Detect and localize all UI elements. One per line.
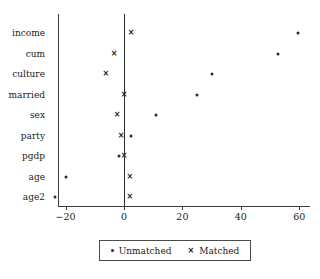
x-axis-tick-label: 20 bbox=[176, 211, 188, 222]
y-axis-line bbox=[58, 14, 59, 206]
x-axis-tick-label: 40 bbox=[235, 211, 247, 222]
data-point-unmatched-income bbox=[296, 32, 299, 35]
data-point-matched-married: × bbox=[121, 91, 128, 99]
y-axis-label-cum: cum bbox=[26, 49, 45, 59]
data-point-matched-pgdp: × bbox=[121, 152, 128, 160]
data-point-matched-age: × bbox=[126, 173, 133, 181]
y-axis-label-sex: sex bbox=[30, 110, 45, 120]
x-axis-tick bbox=[66, 206, 67, 210]
x-axis-tick bbox=[241, 206, 242, 210]
plot-area: −200204060 incomecumculturemarriedsexpar… bbox=[58, 14, 310, 206]
legend-label-matched: Matched bbox=[199, 246, 239, 256]
data-point-unmatched-married bbox=[196, 93, 199, 96]
data-point-matched-income: × bbox=[128, 29, 135, 37]
y-axis-label-party: party bbox=[21, 131, 45, 141]
chart-legend: Unmatched × Matched bbox=[99, 240, 251, 261]
legend-item-matched: × Matched bbox=[188, 246, 240, 256]
y-axis-label-married: married bbox=[9, 90, 45, 100]
x-axis-tick bbox=[124, 206, 125, 210]
data-point-matched-party: × bbox=[118, 132, 125, 140]
legend-item-unmatched: Unmatched bbox=[111, 246, 172, 256]
x-axis-tick-label: 60 bbox=[293, 211, 305, 222]
x-axis-tick bbox=[182, 206, 183, 210]
data-point-unmatched-cum bbox=[276, 52, 279, 55]
data-point-unmatched-party bbox=[130, 134, 133, 137]
data-point-unmatched-sex bbox=[155, 114, 158, 117]
data-point-unmatched-culture bbox=[210, 73, 213, 76]
standardized-bias-scatter-chart: −200204060 incomecumculturemarriedsexpar… bbox=[0, 0, 320, 279]
x-marker-icon: × bbox=[188, 247, 195, 255]
x-axis-tick bbox=[299, 206, 300, 210]
data-point-unmatched-age2 bbox=[54, 196, 57, 199]
y-axis-label-income: income bbox=[12, 28, 45, 38]
x-axis-line bbox=[58, 206, 310, 207]
data-point-matched-cum: × bbox=[111, 50, 118, 58]
x-axis-tick-label: 0 bbox=[121, 211, 127, 222]
data-point-matched-sex: × bbox=[114, 111, 121, 119]
x-axis-tick-label: −20 bbox=[56, 211, 76, 222]
zero-reference-line bbox=[124, 14, 125, 206]
data-point-matched-culture: × bbox=[103, 70, 110, 78]
y-axis-label-age2: age2 bbox=[23, 192, 45, 202]
y-axis-label-age: age bbox=[29, 172, 45, 182]
y-axis-label-culture: culture bbox=[12, 69, 45, 79]
data-point-unmatched-age bbox=[64, 175, 67, 178]
dot-marker-icon bbox=[111, 249, 114, 252]
legend-label-unmatched: Unmatched bbox=[119, 246, 172, 256]
y-axis-label-pgdp: pgdp bbox=[22, 151, 45, 161]
data-point-matched-age2: × bbox=[126, 193, 133, 201]
